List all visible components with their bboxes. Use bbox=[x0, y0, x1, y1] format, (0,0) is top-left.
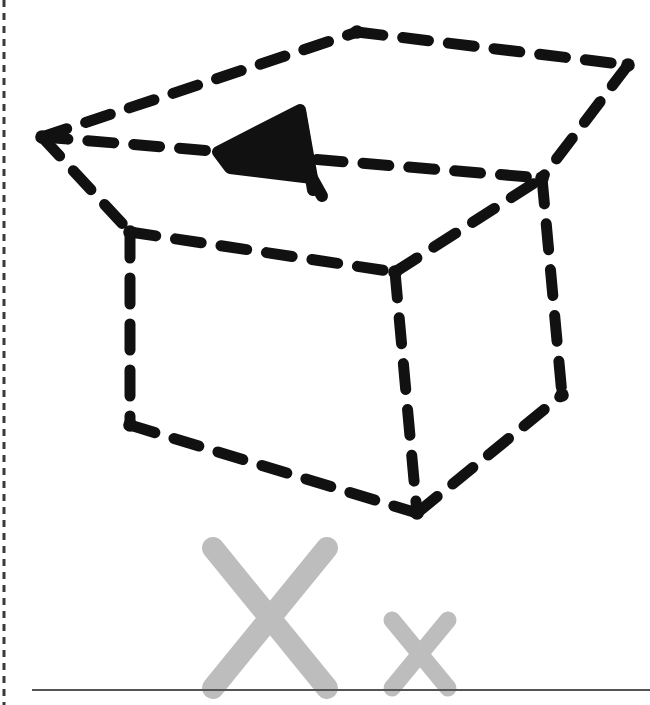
canvas-background bbox=[0, 0, 650, 705]
cube-vertex-right-bottom bbox=[555, 388, 569, 402]
cube-vertex-bottom-center bbox=[410, 506, 424, 520]
cube-vertex-left-bottom bbox=[123, 418, 137, 432]
cube-vertex-top-right-back bbox=[621, 58, 635, 72]
figure-canvas: Hand-drawn dashed wireframe cube with gr… bbox=[0, 0, 650, 705]
cube-vertex-center bbox=[388, 265, 402, 279]
cube-vertex-top-back bbox=[350, 25, 364, 39]
cube-vertex-right-mid bbox=[535, 171, 549, 185]
cube-vertex-left-top bbox=[35, 130, 49, 144]
hand-drawn-cube-figure bbox=[0, 0, 650, 705]
cube-vertex-left-mid bbox=[123, 225, 137, 239]
